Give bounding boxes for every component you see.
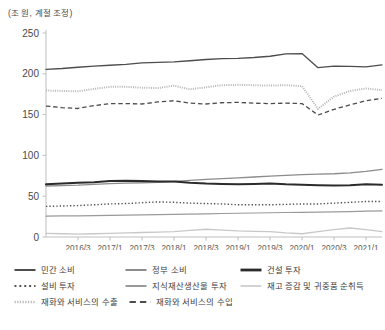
x-tick-label: 2020/3 [321, 244, 346, 250]
x-tick-label: 2016/3 [65, 244, 90, 250]
series-line [46, 211, 382, 216]
legend-item-label: 지식재산생산물 투자 [152, 281, 226, 291]
legend-line-swatch [240, 281, 262, 291]
legend-line-swatch [125, 281, 147, 291]
series-line [46, 202, 382, 207]
x-tick-label: 2019/1 [225, 244, 250, 250]
unit-label: (조 원, 계절 조정) [8, 6, 72, 18]
x-tick-label: 2018/1 [161, 244, 186, 250]
legend-item[interactable]: 재화와 서비스의 수입 [129, 297, 247, 307]
plot-area: 0501001502002502016/32017/12017/32018/12… [0, 22, 385, 250]
y-tick-label: 50 [28, 191, 40, 202]
y-tick-label: 250 [22, 28, 39, 39]
legend-row: 민간 소비정부 소비건설 투자 [0, 262, 385, 278]
x-tick-label: 2019/3 [257, 244, 282, 250]
series-line [46, 228, 382, 234]
legend-line-swatch [129, 297, 151, 307]
x-tick-label: 2021/1 [353, 244, 378, 250]
legend-line-swatch [14, 281, 36, 291]
x-tick-label: 2020/1 [289, 244, 314, 250]
legend-row: 재화와 서비스의 수출재화와 서비스의 수입 [0, 294, 385, 310]
legend-item[interactable]: 지식재산생산물 투자 [125, 281, 239, 291]
legend-row: 설비 투자지식재산생산물 투자재고 증감 및 귀중품 순취득 [0, 278, 385, 294]
line-chart-svg: 0501001502002502016/32017/12017/32018/12… [0, 22, 385, 250]
legend-item-label: 재화와 서비스의 수입 [156, 297, 233, 307]
x-tick-label: 2017/1 [97, 244, 122, 250]
y-tick-label: 100 [22, 150, 39, 161]
legend-item-label: 정부 소비 [152, 265, 186, 275]
legend-line-swatch [240, 265, 262, 275]
legend-item[interactable]: 설비 투자 [14, 281, 125, 291]
legend-item[interactable]: 재화와 서비스의 수출 [14, 297, 129, 307]
legend-item-label: 재화와 서비스의 수출 [41, 297, 118, 307]
legend-item-label: 재고 증감 및 귀중품 순취득 [267, 281, 364, 291]
legend-line-swatch [14, 265, 36, 275]
legend-line-swatch [14, 297, 36, 307]
legend-item-label: 민간 소비 [41, 265, 75, 275]
series-line [46, 98, 382, 115]
legend-item-label: 건설 투자 [267, 265, 301, 275]
legend-item[interactable]: 민간 소비 [14, 265, 125, 275]
series-line [46, 85, 382, 109]
y-tick-label: 150 [22, 109, 39, 120]
x-tick-label: 2018/3 [193, 244, 218, 250]
legend-item[interactable]: 건설 투자 [240, 265, 385, 275]
legend-item[interactable]: 정부 소비 [125, 265, 239, 275]
y-tick-label: 200 [22, 68, 39, 79]
y-tick-label: 0 [33, 232, 39, 243]
chart-legend: 민간 소비정부 소비건설 투자설비 투자지식재산생산물 투자재고 증감 및 귀중… [0, 262, 385, 328]
x-tick-label: 2017/3 [129, 244, 154, 250]
chart-container: (조 원, 계절 조정) 0501001502002502016/32017/1… [0, 0, 385, 330]
legend-item-label: 설비 투자 [41, 281, 75, 291]
series-line [46, 54, 382, 70]
legend-line-swatch [125, 265, 147, 275]
legend-item[interactable]: 재고 증감 및 귀중품 순취득 [240, 281, 385, 291]
